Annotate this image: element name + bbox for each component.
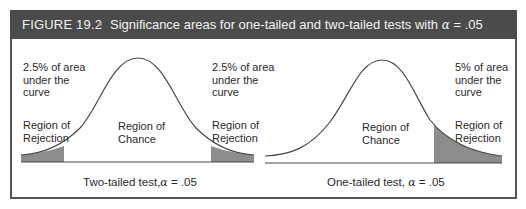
alpha-symbol: α [408,176,415,189]
label-line: Chance [362,134,409,147]
label-line: 5% of area [455,61,508,74]
label-line: Chance [118,133,165,146]
label-line: Rejection [23,132,70,145]
label-line: under the [23,74,85,87]
one-tailed-caption: One-tailed test, α = .05 [327,176,445,189]
label-line: 2.5% of area [212,61,274,74]
label-line: curve [23,86,85,99]
label-line: under the [212,74,274,87]
label-line: Region of [23,119,70,132]
right-region-label: Region of Rejection [212,119,259,144]
right-area-label: 2.5% of area under the curve [212,61,274,99]
caption-suffix: = .05 [171,176,197,188]
label-line: 2.5% of area [23,61,85,74]
center-region-label: Region of Chance [118,120,165,145]
two-tailed-caption: Two-tailed test,α = .05 [83,176,197,189]
label-line: Region of [362,121,409,134]
label-line: Region of [212,119,259,132]
one-tailed-center-region-label: Region of Chance [362,121,409,146]
label-line: Region of [455,119,502,132]
one-tailed-area-label: 5% of area under the curve [455,61,508,99]
caption-text: Two-tailed test, [83,176,160,188]
label-line: curve [212,86,274,99]
caption-suffix: = .05 [419,176,445,188]
distribution-plots [0,0,526,209]
left-area-label: 2.5% of area under the curve [23,61,85,99]
caption-text: One-tailed test, [327,176,405,188]
label-line: Rejection [455,132,502,145]
label-line: Rejection [212,132,259,145]
label-line: curve [455,86,508,99]
one-tailed-region-label: Region of Rejection [455,119,502,144]
label-line: under the [455,74,508,87]
label-line: Region of [118,120,165,133]
left-region-label: Region of Rejection [23,119,70,144]
alpha-symbol: α [160,176,167,189]
